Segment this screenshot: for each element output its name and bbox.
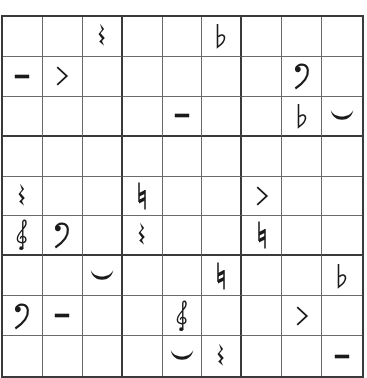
cell-r1-c1[interactable] — [3, 17, 43, 57]
cell-r8-c4[interactable] — [123, 296, 163, 336]
cell-r8-c9[interactable] — [322, 296, 362, 336]
cell-r1-c2[interactable] — [43, 17, 83, 57]
cell-r3-c5[interactable] — [163, 97, 203, 137]
cell-r6-c8[interactable] — [282, 216, 322, 256]
cell-r3-c2[interactable] — [43, 97, 83, 137]
cell-r9-c7[interactable] — [242, 336, 282, 376]
cell-r2-c2[interactable] — [43, 57, 83, 97]
cell-r5-c6[interactable] — [202, 177, 242, 217]
tie-icon — [89, 267, 115, 285]
cell-r9-c4[interactable] — [123, 336, 163, 376]
cell-r5-c5[interactable] — [163, 177, 203, 217]
cell-r3-c8[interactable] — [282, 97, 322, 137]
cell-r7-c9[interactable] — [322, 256, 362, 296]
cell-r2-c1[interactable] — [3, 57, 43, 97]
cell-r3-c6[interactable] — [202, 97, 242, 137]
cell-r4-c5[interactable] — [163, 137, 203, 177]
cell-r3-c4[interactable] — [123, 97, 163, 137]
cell-r4-c9[interactable] — [322, 137, 362, 177]
cell-r6-c7[interactable] — [242, 216, 282, 256]
cell-r5-c4[interactable] — [123, 177, 163, 217]
accent-icon — [54, 64, 70, 88]
cell-r5-c8[interactable] — [282, 177, 322, 217]
cell-r5-c3[interactable] — [83, 177, 123, 217]
cell-r1-c7[interactable] — [242, 17, 282, 57]
cell-r3-c1[interactable] — [3, 97, 43, 137]
cell-r4-c4[interactable] — [123, 137, 163, 177]
cell-r9-c6[interactable] — [202, 336, 242, 376]
cell-r4-c3[interactable] — [83, 137, 123, 177]
cell-r2-c3[interactable] — [83, 57, 123, 97]
cell-r8-c3[interactable] — [83, 296, 123, 336]
cell-r4-c1[interactable] — [3, 137, 43, 177]
puzzle-board — [1, 15, 364, 378]
cell-r9-c5[interactable] — [163, 336, 203, 376]
cell-r8-c1[interactable] — [3, 296, 43, 336]
cell-r8-c8[interactable] — [282, 296, 322, 336]
tie-icon — [329, 107, 355, 125]
cell-r2-c8[interactable] — [282, 57, 322, 97]
flat-icon — [335, 262, 349, 290]
tenuto-icon — [173, 111, 191, 120]
cell-r6-c3[interactable] — [83, 216, 123, 256]
cell-r5-c2[interactable] — [43, 177, 83, 217]
cell-r6-c9[interactable] — [322, 216, 362, 256]
cell-r9-c2[interactable] — [43, 336, 83, 376]
natural-icon — [136, 181, 148, 211]
cell-r3-c3[interactable] — [83, 97, 123, 137]
cell-r9-c8[interactable] — [282, 336, 322, 376]
cell-r6-c5[interactable] — [163, 216, 203, 256]
cell-r3-c7[interactable] — [242, 97, 282, 137]
cell-r7-c5[interactable] — [163, 256, 203, 296]
cell-r4-c2[interactable] — [43, 137, 83, 177]
cell-r7-c3[interactable] — [83, 256, 123, 296]
cell-r6-c4[interactable] — [123, 216, 163, 256]
bass-clef-icon — [12, 301, 32, 331]
cell-r7-c4[interactable] — [123, 256, 163, 296]
bass-clef-icon — [52, 220, 72, 250]
cell-r4-c7[interactable] — [242, 137, 282, 177]
natural-icon — [215, 261, 227, 291]
cell-r1-c8[interactable] — [282, 17, 322, 57]
cell-r9-c1[interactable] — [3, 336, 43, 376]
cell-r9-c9[interactable] — [322, 336, 362, 376]
cell-r8-c6[interactable] — [202, 296, 242, 336]
cell-r7-c8[interactable] — [282, 256, 322, 296]
treble-clef-icon — [14, 218, 30, 252]
cell-r5-c9[interactable] — [322, 177, 362, 217]
cell-r5-c1[interactable] — [3, 177, 43, 217]
cell-r6-c1[interactable] — [3, 216, 43, 256]
cell-r2-c7[interactable] — [242, 57, 282, 97]
cell-r2-c4[interactable] — [123, 57, 163, 97]
cell-r2-c9[interactable] — [322, 57, 362, 97]
cell-r3-c9[interactable] — [322, 97, 362, 137]
natural-icon — [256, 220, 268, 250]
cell-r7-c1[interactable] — [3, 256, 43, 296]
cell-r7-c6[interactable] — [202, 256, 242, 296]
tenuto-icon — [13, 72, 31, 81]
quarter-rest-icon — [15, 182, 29, 210]
cell-r7-c7[interactable] — [242, 256, 282, 296]
cell-r5-c7[interactable] — [242, 177, 282, 217]
accent-icon — [254, 184, 270, 208]
cell-r4-c8[interactable] — [282, 137, 322, 177]
cell-r2-c6[interactable] — [202, 57, 242, 97]
cell-r9-c3[interactable] — [83, 336, 123, 376]
cell-r1-c9[interactable] — [322, 17, 362, 57]
cell-r4-c6[interactable] — [202, 137, 242, 177]
cell-r8-c2[interactable] — [43, 296, 83, 336]
cell-r6-c6[interactable] — [202, 216, 242, 256]
cell-r1-c5[interactable] — [163, 17, 203, 57]
cell-r8-c7[interactable] — [242, 296, 282, 336]
cell-r1-c4[interactable] — [123, 17, 163, 57]
cell-r1-c6[interactable] — [202, 17, 242, 57]
quarter-rest-icon — [95, 22, 109, 50]
quarter-rest-icon — [214, 342, 228, 370]
cell-r7-c2[interactable] — [43, 256, 83, 296]
cell-r2-c5[interactable] — [163, 57, 203, 97]
tie-icon — [169, 347, 195, 365]
cell-r1-c3[interactable] — [83, 17, 123, 57]
cell-r8-c5[interactable] — [163, 296, 203, 336]
quarter-rest-icon — [135, 221, 149, 249]
cell-r6-c2[interactable] — [43, 216, 83, 256]
